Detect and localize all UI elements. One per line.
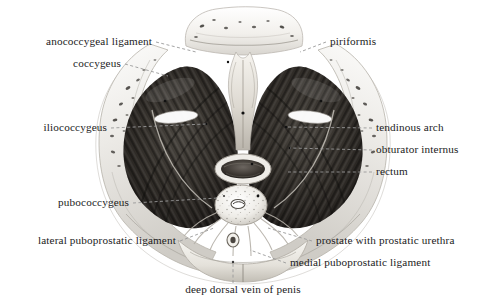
rectum — [215, 154, 271, 184]
anatomical-figure: anococcygeal ligamentcoccygeusiliococcyg… — [0, 0, 486, 298]
label-pubococcygeus: pubococcygeus — [58, 197, 129, 208]
label-deep-dorsal-vein-of-penis: deep dorsal vein of penis — [185, 284, 301, 295]
label-rectum: rectum — [376, 166, 408, 177]
deep-dorsal-vein-of-penis — [227, 233, 239, 247]
label-tendinous-arch: tendinous arch — [376, 122, 444, 133]
label-medial-puboprostatic-ligament: medial puboprostatic ligament — [290, 257, 430, 268]
prostatic-urethra — [231, 200, 245, 209]
sacrum — [185, 7, 302, 55]
label-coccygeus: coccygeus — [73, 58, 121, 69]
label-piriformis: piriformis — [330, 36, 376, 47]
label-iliococcygeus: iliococcygeus — [44, 122, 107, 133]
prostate — [215, 185, 267, 225]
label-lateral-puboprostatic-ligament: lateral puboprostatic ligament — [38, 235, 176, 246]
label-prostate-with-prostatic-urethra: prostate with prostatic urethra — [316, 235, 455, 246]
label-anococcygeal-ligament: anococcygeal ligament — [46, 36, 152, 47]
label-obturator-internus: obturator internus — [376, 144, 459, 155]
